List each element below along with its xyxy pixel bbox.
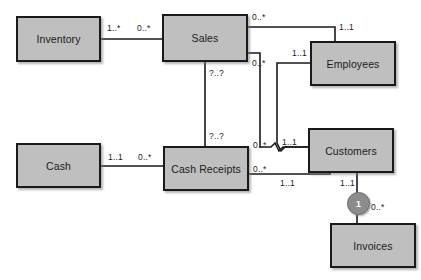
multiplicity-inventory-right: 1..* [107, 23, 121, 33]
entity-sales[interactable]: Sales [162, 14, 248, 62]
entity-customers[interactable]: Customers [308, 128, 394, 173]
multiplicity-sales-left: 0..* [137, 23, 151, 33]
entity-invoices[interactable]: Invoices [330, 223, 416, 268]
multiplicity-cash-right: 1..1 [108, 152, 123, 162]
multiplicity-cash-receipts-top: ?..? [209, 131, 224, 141]
entity-employees[interactable]: Employees [310, 41, 396, 86]
multiplicity-customers-bottom-left: 1..1 [280, 178, 295, 188]
entity-cash-receipts[interactable]: Cash Receipts [163, 146, 249, 191]
multiplicity-customers-left: 1..1 [282, 137, 297, 147]
entity-cash[interactable]: Cash [16, 143, 101, 188]
entity-label-sales: Sales [192, 32, 219, 44]
multiplicity-cash-receipts-right-upper: 0..* [253, 140, 267, 150]
multiplicity-invoices-top: 0..* [371, 202, 385, 212]
multiplicity-employees-top: 1..1 [339, 22, 354, 32]
multiplicity-sales-bottom: ?..? [209, 68, 224, 78]
entity-label-cash-receipts: Cash Receipts [171, 163, 241, 175]
multiplicity-sales-top-right: 0..* [252, 12, 266, 22]
multiplicity-customers-bottom-right: 1..1 [340, 178, 355, 188]
entity-label-employees: Employees [327, 58, 380, 70]
entity-label-customers: Customers [325, 145, 377, 157]
constraint-marker-label: 1 [356, 199, 361, 209]
multiplicity-cash-receipts-left: 0..* [138, 152, 152, 162]
entity-label-cash: Cash [46, 160, 71, 172]
entity-inventory[interactable]: Inventory [16, 16, 101, 62]
multiplicity-employees-left: 1..1 [292, 48, 307, 58]
entity-label-invoices: Invoices [353, 240, 392, 252]
entity-label-inventory: Inventory [36, 33, 80, 45]
multiplicity-cash-receipts-right-lower: 0..* [253, 164, 267, 174]
diagram-canvas: Inventory Sales Employees Cash Cash Rece… [0, 0, 421, 280]
edge-sales-employees [248, 27, 335, 41]
multiplicity-sales-bottom-right: 0..* [252, 58, 266, 68]
constraint-marker-1: 1 [347, 192, 370, 215]
